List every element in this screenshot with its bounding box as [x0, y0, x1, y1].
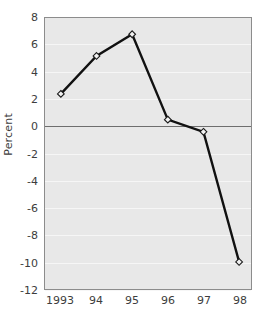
x-axis-tick-labels: 1993 94 95 96 97 98 — [0, 294, 269, 316]
x-tick-label: 95 — [125, 294, 139, 307]
x-tick-label: 96 — [161, 294, 175, 307]
data-point-marker — [164, 116, 171, 123]
y-tick-label: 4 — [31, 65, 38, 78]
x-tick-label: 98 — [233, 294, 247, 307]
gridline — [45, 290, 251, 291]
y-tick-label: -2 — [27, 147, 38, 160]
plot-area — [44, 17, 252, 290]
data-point-marker — [200, 128, 207, 135]
data-point-marker — [236, 259, 243, 266]
y-tick-label: -10 — [20, 256, 38, 269]
y-tick-label: 2 — [31, 92, 38, 105]
y-axis-title: Percent — [2, 113, 15, 156]
y-tick-label: 0 — [31, 120, 38, 133]
series-line — [61, 34, 239, 262]
chart-screenshot: 8 6 4 2 0 -2 -4 -6 -8 -10 -12 Percent 19… — [0, 0, 269, 329]
y-tick-label: -6 — [27, 202, 38, 215]
y-tick-label: -4 — [27, 174, 38, 187]
y-tick-label: 6 — [31, 38, 38, 51]
y-tick-label: -8 — [27, 229, 38, 242]
series-svg — [45, 18, 251, 289]
y-tick-label: 8 — [31, 11, 38, 24]
x-tick-label: 1993 — [46, 294, 74, 307]
x-tick-label: 97 — [197, 294, 211, 307]
y-axis-tick-labels: 8 6 4 2 0 -2 -4 -6 -8 -10 -12 — [0, 0, 41, 329]
x-tick-label: 94 — [89, 294, 103, 307]
data-point-markers — [57, 31, 242, 265]
